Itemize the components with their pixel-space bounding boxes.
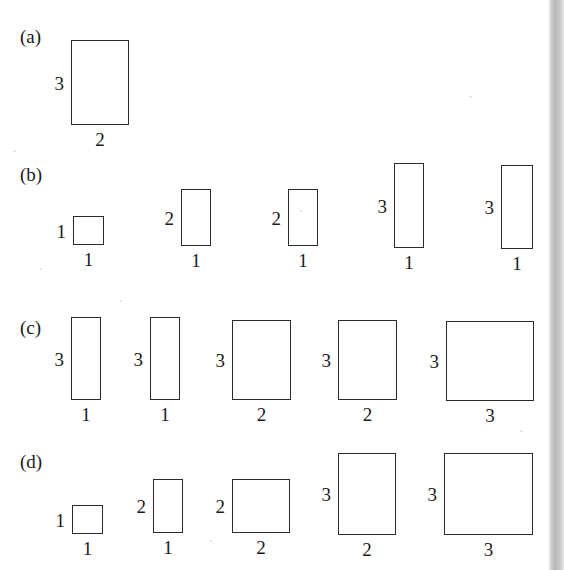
width-label: 1 [191,246,201,270]
rectangle [181,189,211,246]
rectangle [446,321,534,401]
height-label: 3 [55,73,72,92]
height-label: 3 [428,485,445,504]
width-label: 1 [84,245,94,269]
rectangle [153,479,183,533]
width-label: 3 [485,401,495,425]
width-label: 2 [363,400,373,424]
rectangle [338,320,397,400]
width-label: 2 [95,125,105,149]
rectangle [288,189,318,246]
rectangle [338,453,396,535]
width-label: 1 [404,248,414,272]
width-label: 3 [484,535,494,559]
height-label: 1 [57,221,74,240]
rectangle [444,453,533,535]
height-label: 2 [165,208,182,227]
rectangle [232,479,290,533]
rectangle-figure: (a)32(b)1121213131(c)3131323233(d)112122… [0,0,564,570]
width-label: 1 [83,534,93,558]
height-label: 3 [430,352,447,371]
row-tag-b: (b) [20,165,42,184]
width-label: 2 [257,400,267,424]
paper-speck [210,540,212,542]
paper-speck [520,430,522,432]
height-label: 2 [272,208,289,227]
height-label: 2 [216,497,233,516]
height-label: 3 [322,351,339,370]
rectangle [72,505,103,534]
paper-speck [470,96,472,98]
rectangle [394,163,424,248]
page-edge-shadow [548,0,564,570]
rectangle [73,216,104,245]
height-label: 3 [322,485,339,504]
rectangle [71,40,129,125]
rectangle [150,317,180,400]
row-tag-c: (c) [20,318,41,337]
width-label: 1 [512,249,522,273]
width-label: 1 [298,246,308,270]
row-tag-d: (d) [20,452,42,471]
paper-speck [120,300,122,302]
row-tag-a: (a) [20,27,41,46]
height-label: 2 [137,497,154,516]
width-label: 1 [163,533,173,557]
rectangle [501,165,533,249]
paper-speck [300,210,302,212]
height-label: 3 [55,349,72,368]
width-label: 2 [256,533,266,557]
height-label: 3 [378,196,395,215]
rectangle [232,320,291,400]
width-label: 2 [362,535,372,559]
height-label: 1 [56,510,73,529]
width-label: 1 [160,400,170,424]
paper-speck [14,150,16,152]
height-label: 3 [485,198,502,217]
height-label: 3 [216,351,233,370]
paper-speck [88,420,90,422]
height-label: 3 [134,349,151,368]
rectangle [71,317,101,400]
paper-speck [40,268,42,270]
